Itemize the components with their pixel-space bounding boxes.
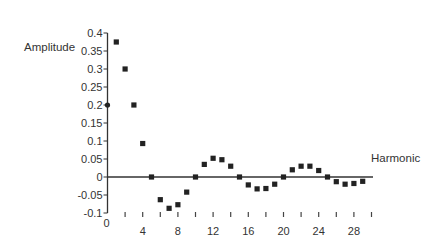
data-point: [307, 164, 312, 169]
y-tick-label: 0.2: [87, 99, 102, 111]
y-axis-title: Amplitude: [24, 41, 75, 53]
y-tick-label: 0: [96, 171, 102, 183]
data-point: [105, 102, 110, 107]
data-points: [105, 39, 365, 211]
data-point: [114, 39, 119, 44]
data-point: [343, 182, 348, 187]
data-point: [193, 174, 198, 179]
data-point: [149, 174, 154, 179]
data-point: [360, 179, 365, 184]
data-point: [123, 66, 128, 71]
x-tick-label: 28: [348, 225, 360, 237]
y-tick-label: 0.1: [87, 135, 102, 147]
data-point: [237, 174, 242, 179]
data-point: [255, 186, 260, 191]
data-point: [290, 167, 295, 172]
data-point: [219, 157, 224, 162]
y-tick-label: 0.3: [87, 63, 102, 75]
data-point: [211, 156, 216, 161]
x-tick-label: 0: [103, 217, 109, 229]
data-point: [281, 174, 286, 179]
y-tick-label: 0.35: [81, 45, 102, 57]
data-point: [167, 206, 172, 211]
data-point: [131, 102, 136, 107]
data-point: [184, 190, 189, 195]
data-point: [334, 179, 339, 184]
y-tick-label: -0.1: [84, 207, 103, 219]
y-tick-label: 0.15: [81, 117, 102, 129]
data-point: [316, 168, 321, 173]
data-point: [263, 186, 268, 191]
data-point: [202, 162, 207, 167]
data-point: [175, 202, 180, 207]
x-tick-label: 20: [277, 225, 289, 237]
amplitude-harmonic-chart: 0.40.350.30.250.20.150.10.050-0.05-0.104…: [0, 0, 441, 241]
x-tick-label: 16: [242, 225, 254, 237]
data-point: [228, 164, 233, 169]
y-tick-label: -0.05: [77, 189, 102, 201]
x-tick-label: 24: [313, 225, 325, 237]
x-axis-title: Harmonic: [371, 152, 420, 164]
y-tick-label: 0.05: [81, 153, 102, 165]
x-tick-label: 8: [175, 225, 181, 237]
data-point: [299, 164, 304, 169]
data-point: [351, 181, 356, 186]
x-tick-label: 12: [207, 225, 219, 237]
data-point: [246, 182, 251, 187]
data-point: [325, 174, 330, 179]
data-point: [140, 141, 145, 146]
y-tick-label: 0.25: [81, 81, 102, 93]
data-point: [272, 182, 277, 187]
axes: 0.40.350.30.250.20.150.10.050-0.05-0.104…: [77, 27, 373, 237]
y-tick-label: 0.4: [87, 27, 102, 39]
data-point: [158, 197, 163, 202]
x-tick-label: 4: [140, 225, 146, 237]
